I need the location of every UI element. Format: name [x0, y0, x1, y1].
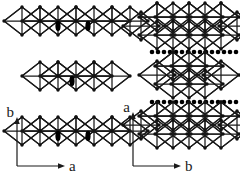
right-axis-vertical-label: a	[123, 99, 130, 115]
figure-canvas: b a	[0, 0, 240, 181]
crystal-structure-diagram: b a	[0, 0, 240, 181]
right-axis-horizontal-label: b	[185, 158, 193, 174]
cation-marker	[85, 131, 90, 141]
cation-marker	[69, 76, 74, 86]
interlayer-dot-row-top	[150, 50, 239, 55]
left-axis-horizontal-label: a	[69, 158, 76, 174]
cation-marker	[55, 131, 60, 141]
left-slab-middle	[20, 60, 131, 91]
interlayer-dot-row-bottom	[150, 100, 239, 105]
cation-marker	[55, 21, 60, 31]
cation-marker	[85, 21, 90, 31]
left-axis-vertical-label: b	[7, 104, 15, 120]
